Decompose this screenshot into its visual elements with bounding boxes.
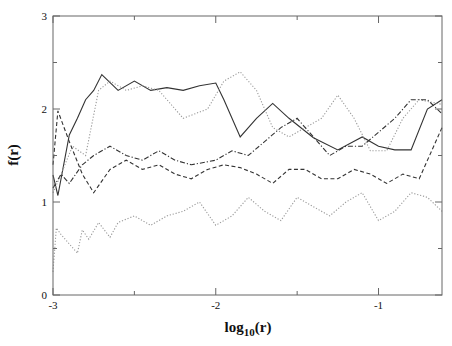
y-tick-label: 1 (42, 196, 48, 208)
x-tick-label: -3 (48, 299, 58, 311)
series-dotted-lower (53, 193, 442, 272)
y-tick-label: 3 (42, 10, 48, 22)
y-axis-title: f(r) (5, 144, 22, 166)
series-dash-dot (53, 100, 442, 188)
x-tick-label: -1 (374, 299, 383, 311)
x-axis-title: log10(r) (225, 319, 272, 338)
series-solid (53, 75, 442, 196)
series-dotted-upper (53, 72, 442, 193)
x-tick-label: -2 (211, 299, 220, 311)
axes: 0123-3-2-1 (42, 10, 443, 311)
y-tick-label: 2 (42, 103, 48, 115)
line-chart: 0123-3-2-1 log10(r) f(r) (0, 0, 452, 346)
plot-area (53, 72, 442, 272)
series-dashed (53, 111, 442, 193)
y-tick-label: 0 (42, 289, 48, 301)
